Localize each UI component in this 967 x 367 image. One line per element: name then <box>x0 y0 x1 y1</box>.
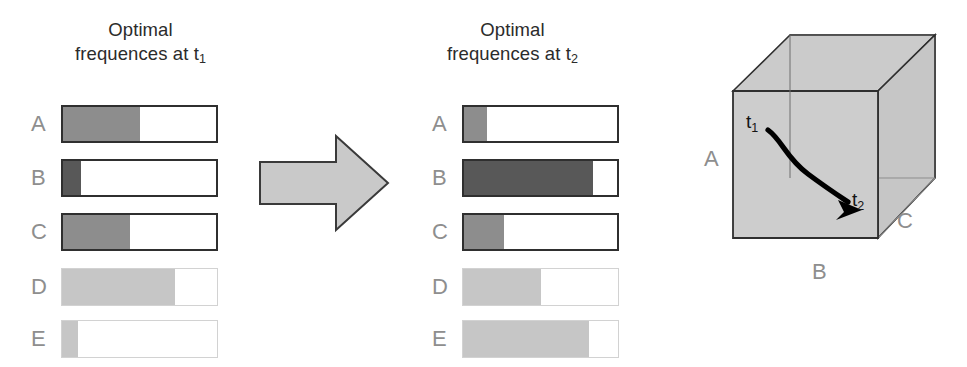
bar-fill <box>464 107 487 141</box>
state-space-cube: A B C t1 t2 <box>690 8 967 308</box>
bar-row-label: D <box>432 276 448 298</box>
bar-row-label: A <box>432 113 447 135</box>
cube-t1-label: t1 <box>746 112 758 131</box>
bar-fill <box>464 161 593 195</box>
bar-row: A <box>462 105 619 143</box>
bar-row: D <box>462 268 619 306</box>
bar-row-label: E <box>432 328 447 350</box>
bar-row-label: C <box>432 221 448 243</box>
bar-track <box>462 105 619 143</box>
frequency-shift-figure: Optimal frequences at t1 Optimal frequen… <box>0 0 967 367</box>
cube-t2-subscript: 2 <box>857 199 864 213</box>
cube-axis-label-b: B <box>812 261 827 283</box>
cube-graphic <box>690 8 967 308</box>
bar-row-label: B <box>432 167 447 189</box>
bar-track <box>462 159 619 197</box>
cube-axis-label-c: C <box>897 210 913 232</box>
bar-row: E <box>462 320 619 358</box>
bar-row: C <box>462 213 619 251</box>
transition-arrow-icon <box>258 132 390 234</box>
bar-fill <box>463 269 541 305</box>
bar-track <box>462 320 619 358</box>
bar-track <box>462 213 619 251</box>
bar-row: B <box>462 159 619 197</box>
cube-t2-label: t2 <box>852 190 864 209</box>
cube-t1-subscript: 1 <box>751 121 758 135</box>
bar-fill <box>463 321 589 357</box>
bar-fill <box>464 215 504 249</box>
bar-track <box>462 268 619 306</box>
cube-axis-label-a: A <box>704 148 719 170</box>
